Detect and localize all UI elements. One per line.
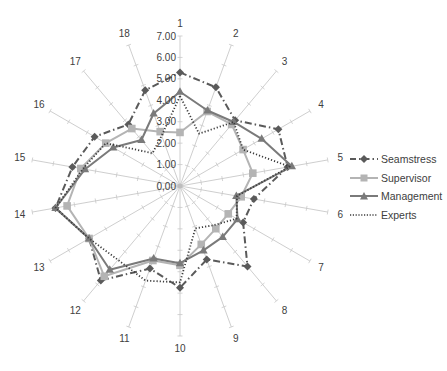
category-label: 16 [33, 99, 45, 110]
square-solid-icon [350, 172, 378, 184]
axis-spoke [84, 186, 180, 301]
data-point [176, 68, 184, 76]
category-label: 15 [14, 152, 26, 163]
data-point [176, 129, 184, 137]
category-label: 17 [70, 56, 82, 67]
category-label: 10 [174, 343, 186, 354]
radial-tick-label: 5.00 [157, 73, 177, 84]
category-label: 18 [119, 28, 131, 39]
category-label: 1 [177, 18, 183, 29]
category-label: 3 [282, 56, 288, 67]
data-point [250, 195, 258, 203]
radial-tick-label: 7.00 [157, 31, 177, 42]
diamond-dashdot-icon [350, 153, 378, 165]
category-label: 12 [70, 305, 82, 316]
axis-spoke [180, 71, 276, 186]
category-label: 2 [233, 28, 239, 39]
legend-item-seamstress: Seamstress [350, 150, 447, 169]
category-label: 4 [318, 99, 324, 110]
radial-tick-label: 4.00 [157, 95, 177, 106]
category-label: 9 [233, 333, 239, 344]
data-point [212, 225, 220, 233]
category-label: 13 [33, 262, 45, 273]
axis-spoke [180, 186, 276, 301]
axis-spoke [180, 45, 231, 186]
dotted-line-icon [350, 209, 378, 221]
category-label: 5 [337, 152, 343, 163]
data-point [141, 86, 149, 94]
legend-label: Supervisor [381, 172, 431, 184]
data-point [102, 139, 110, 147]
radial-tick-label: 0,00 [157, 181, 177, 192]
legend-label: Seamstress [381, 153, 436, 165]
data-point [224, 210, 232, 218]
data-point [249, 169, 257, 177]
data-point [176, 87, 184, 95]
legend-label: Management [381, 190, 442, 202]
category-label: 6 [337, 209, 343, 220]
radial-tick-label: 6.00 [157, 52, 177, 63]
category-label: 11 [119, 333, 130, 344]
data-point [100, 272, 108, 280]
radial-tick-label: 3.00 [157, 116, 177, 127]
data-point [239, 146, 247, 154]
legend-item-experts: Experts [350, 206, 447, 225]
category-label: 7 [318, 262, 324, 273]
legend-label: Experts [381, 209, 417, 221]
data-point [63, 202, 71, 210]
category-label: 8 [282, 305, 288, 316]
data-point [274, 125, 282, 133]
legend-item-supervisor: Supervisor [350, 169, 447, 188]
data-point [146, 265, 154, 273]
triangle-solid-icon [350, 190, 378, 202]
chart-legend: Seamstress Supervisor Management Experts [350, 150, 447, 224]
data-point [128, 125, 136, 133]
series-supervisor [63, 108, 256, 280]
radial-tick-label: 2.00 [157, 138, 177, 149]
category-label: 14 [14, 209, 26, 220]
radial-tick-label: 1.00 [157, 159, 177, 170]
legend-item-management: Management [350, 187, 447, 206]
data-point [212, 83, 220, 91]
data-point [239, 218, 247, 226]
